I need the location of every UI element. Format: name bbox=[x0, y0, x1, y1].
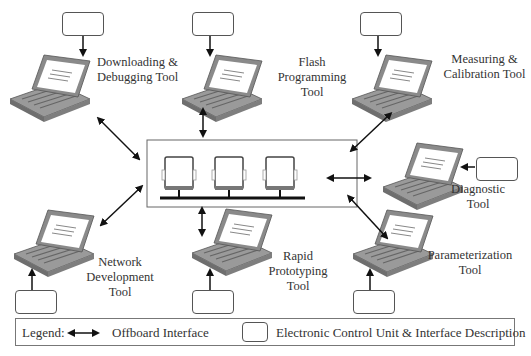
label-parameterization-tool: Parameterization Tool bbox=[420, 248, 520, 278]
ecu-box-diagnostic bbox=[476, 157, 518, 181]
ecu-box-measuring bbox=[360, 12, 402, 36]
legend-offboard-label: Offboard Interface bbox=[112, 325, 209, 341]
label-diagnostic-tool: Diagnostic Tool bbox=[448, 182, 508, 212]
legend-ecu-label: Electronic Control Unit & Interface Desc… bbox=[276, 325, 525, 341]
laptop-flash bbox=[182, 55, 262, 122]
laptop-downloading bbox=[10, 55, 90, 122]
label-measuring-tool: Measuring & Calibration Tool bbox=[442, 52, 527, 82]
label-downloading-tool: Downloading & Debugging Tool bbox=[97, 55, 178, 85]
legend: Legend: Offboard Interface Electronic Co… bbox=[15, 318, 515, 346]
ecu-box-network bbox=[15, 290, 57, 314]
ecu-box-flash bbox=[192, 12, 234, 36]
label-network-development-tool: Network Development Tool bbox=[80, 255, 160, 300]
ecu-box-downloading bbox=[62, 12, 104, 36]
ecu-box-parameterization bbox=[353, 290, 395, 314]
label-flash-tool: Flash Programming Tool bbox=[276, 55, 348, 100]
central-ecu-network bbox=[147, 140, 357, 207]
laptop-measuring bbox=[352, 55, 432, 122]
label-rapid-prototyping-tool: Rapid Prototyping Tool bbox=[258, 249, 338, 294]
legend-ecu-box-icon bbox=[242, 322, 268, 342]
ecu-box-rapid bbox=[192, 290, 234, 314]
legend-title: Legend: bbox=[22, 325, 65, 341]
